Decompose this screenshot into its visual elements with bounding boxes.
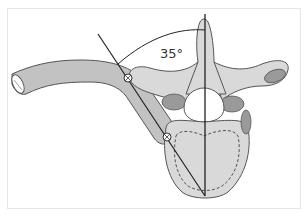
screw-head-upper <box>124 74 132 82</box>
angle-label: 35° <box>160 47 183 60</box>
vertebral-body <box>165 120 250 198</box>
screw-head-lower <box>163 133 171 141</box>
vertebra-diagram <box>0 0 304 218</box>
